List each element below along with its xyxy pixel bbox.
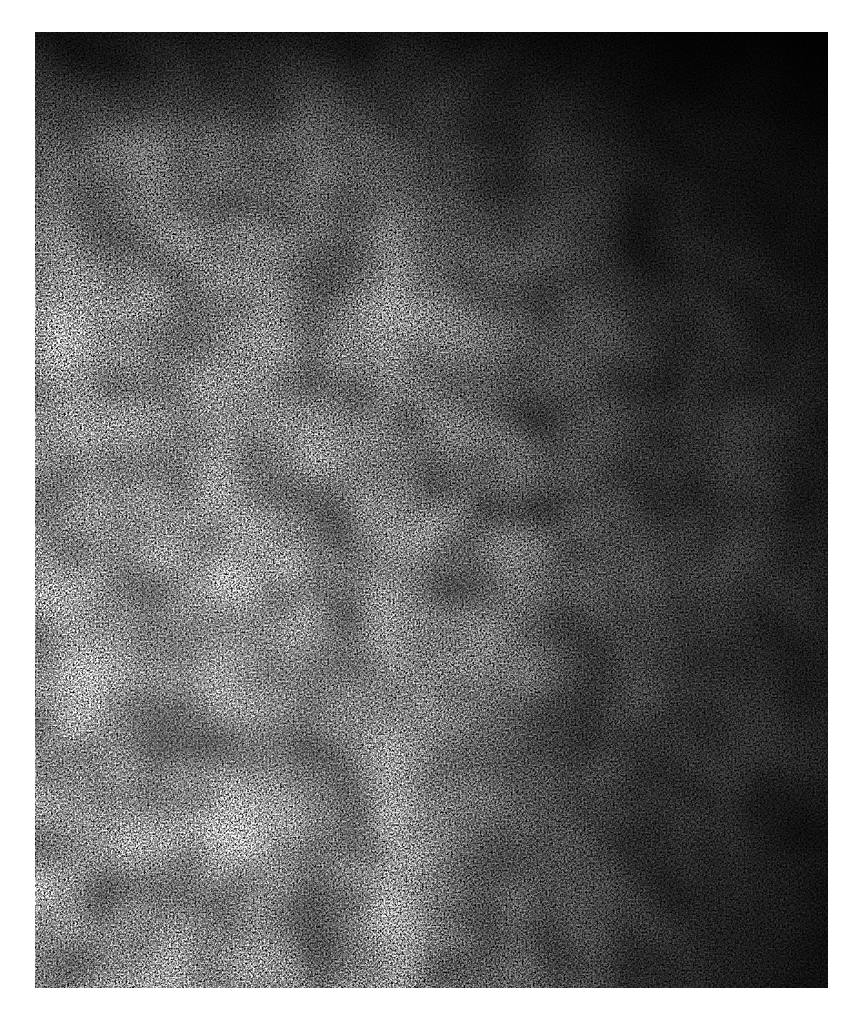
- noise-texture: [35, 32, 828, 988]
- speckle-texture-image: [35, 32, 828, 988]
- page: [0, 0, 858, 1022]
